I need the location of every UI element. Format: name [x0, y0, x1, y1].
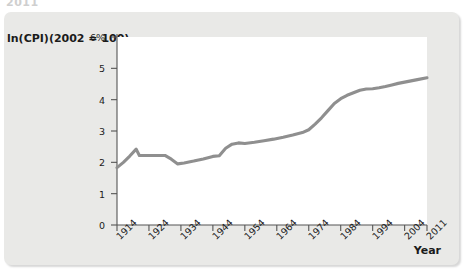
y-tick-label: 3	[75, 126, 105, 137]
y-tick-label: 1	[75, 188, 105, 199]
chart-panel: ln(CPI)(2002 = 100) 0123456% 19141924193…	[4, 12, 459, 265]
y-tick-label: 0	[75, 220, 105, 231]
series-line-ln-cpi	[117, 78, 427, 168]
y-tick-label: 5	[75, 63, 105, 74]
y-tick-label: 6%	[75, 32, 105, 43]
clipped-header-text: 2011	[6, 0, 39, 9]
chart-panel-inner: ln(CPI)(2002 = 100) 0123456% 19141924193…	[4, 12, 459, 265]
y-tick-marks	[111, 37, 117, 225]
y-tick-label: 2	[75, 157, 105, 168]
x-axis-title: Year	[414, 244, 441, 257]
y-tick-label: 4	[75, 94, 105, 105]
